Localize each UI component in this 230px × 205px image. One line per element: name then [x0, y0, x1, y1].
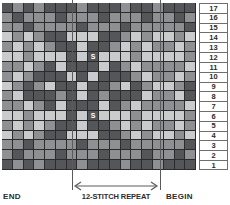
stitch-cell	[175, 101, 186, 111]
row-number: 14	[200, 33, 227, 43]
stitch-cell	[77, 82, 88, 92]
stitch-cell	[99, 62, 110, 72]
stitch-cell	[13, 13, 24, 23]
stitch-cell	[77, 121, 88, 131]
stitch-cell	[131, 111, 142, 121]
stitch-cell	[2, 150, 13, 160]
stitch-cell	[24, 121, 35, 131]
stitch-cell	[88, 150, 99, 160]
stitch-cell	[77, 91, 88, 101]
stitch-cell	[24, 13, 35, 23]
stitch-cell	[77, 62, 88, 72]
stitch-cell	[142, 121, 153, 131]
knitting-chart: SS 1716151413121110987654321 END 12-STIT…	[0, 0, 230, 205]
chart-row	[2, 91, 196, 101]
stitch-cell	[153, 140, 164, 150]
stitch-cell	[2, 72, 13, 82]
stitch-cell	[13, 3, 24, 13]
stitch-cell	[110, 42, 121, 52]
stitch-cell	[185, 140, 196, 150]
stitch-cell	[99, 32, 110, 42]
row-number: 5	[200, 122, 227, 132]
stitch-cell	[88, 3, 99, 13]
stitch-cell	[56, 82, 67, 92]
stitch-cell	[185, 150, 196, 160]
stitch-cell	[34, 150, 45, 160]
stitch-cell	[88, 72, 99, 82]
stitch-cell	[56, 3, 67, 13]
row-number: 6	[200, 112, 227, 122]
stitch-cell	[175, 140, 186, 150]
stitch-cell	[185, 160, 196, 170]
stitch-cell	[99, 160, 110, 170]
stitch-cell	[77, 140, 88, 150]
stitch-cell	[142, 101, 153, 111]
stitch-cell	[175, 121, 186, 131]
stitch-cell	[175, 160, 186, 170]
stitch-cell	[99, 23, 110, 33]
stitch-cell	[45, 121, 56, 131]
stitch-cell	[88, 131, 99, 141]
stitch-cell	[153, 91, 164, 101]
stitch-cell	[45, 101, 56, 111]
stitch-cell	[175, 82, 186, 92]
stitch-cell	[34, 3, 45, 13]
stitch-cell	[131, 72, 142, 82]
stitch-cell	[24, 91, 35, 101]
stitch-cell	[131, 91, 142, 101]
stitch-cell	[110, 91, 121, 101]
row-number: 2	[200, 151, 227, 161]
stitch-cell	[153, 52, 164, 62]
stitch-cell	[13, 131, 24, 141]
stitch-cell	[142, 32, 153, 42]
stitch-cell	[24, 23, 35, 33]
stitch-cell	[45, 42, 56, 52]
stitch-cell	[153, 3, 164, 13]
stitch-cell	[13, 121, 24, 131]
row-number: 3	[200, 141, 227, 151]
stitch-cell	[88, 62, 99, 72]
chart-row	[2, 23, 196, 33]
stitch-cell	[142, 13, 153, 23]
stitch-cell	[45, 82, 56, 92]
stitch-cell	[99, 121, 110, 131]
stitch-cell	[2, 23, 13, 33]
stitch-cell	[24, 72, 35, 82]
stitch-cell	[45, 62, 56, 72]
stitch-cell	[13, 62, 24, 72]
stitch-cell	[153, 13, 164, 23]
stitch-cell	[175, 62, 186, 72]
stitch-cell	[77, 150, 88, 160]
stitch-cell	[110, 32, 121, 42]
stitch-cell	[110, 23, 121, 33]
stitch-cell	[77, 3, 88, 13]
stitch-cell	[153, 121, 164, 131]
stitch-cell	[56, 111, 67, 121]
stitch-cell	[131, 32, 142, 42]
stitch-cell	[110, 101, 121, 111]
stitch-cell	[142, 160, 153, 170]
stitch-cell	[142, 82, 153, 92]
stitch-cell	[13, 32, 24, 42]
stitch-cell	[99, 131, 110, 141]
stitch-cell	[45, 13, 56, 23]
stitch-cell	[164, 101, 175, 111]
stitch-cell	[77, 23, 88, 33]
stitch-cell	[99, 3, 110, 13]
stitch-cell	[153, 72, 164, 82]
row-number: 16	[200, 14, 227, 24]
stitch-cell	[13, 42, 24, 52]
stitch-cell	[24, 140, 35, 150]
stitch-cell	[88, 42, 99, 52]
stitch-cell	[56, 62, 67, 72]
stitch-cell	[164, 160, 175, 170]
stitch-cell	[24, 32, 35, 42]
stitch-cell	[121, 52, 132, 62]
row-number: 1	[200, 161, 227, 171]
stitch-cell	[45, 140, 56, 150]
stitch-cell	[153, 62, 164, 72]
stitch-cell	[13, 72, 24, 82]
label-begin: BEGIN	[166, 192, 193, 201]
stitch-cell	[34, 91, 45, 101]
stitch-cell	[164, 32, 175, 42]
